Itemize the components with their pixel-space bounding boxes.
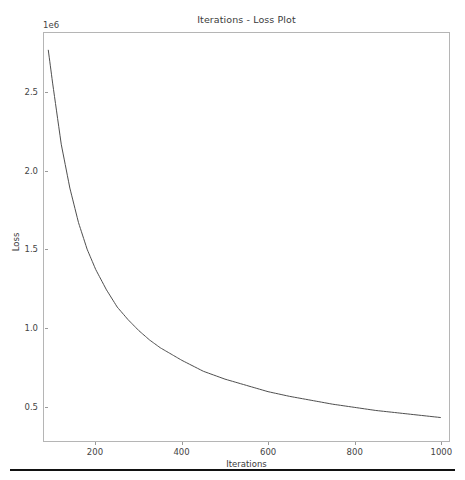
y-tick-mark bbox=[45, 249, 48, 250]
x-tick-mark bbox=[95, 442, 96, 445]
x-tick-label: 800 bbox=[347, 447, 363, 457]
bottom-divider bbox=[10, 469, 455, 471]
loss-line-series bbox=[48, 50, 440, 417]
x-tick-mark bbox=[441, 442, 442, 445]
y-tick-mark bbox=[45, 171, 48, 172]
x-tick-label: 200 bbox=[87, 447, 103, 457]
figure-canvas: Iterations - Loss Plot 1e6 0.51.01.52.02… bbox=[0, 0, 465, 480]
x-tick-mark bbox=[355, 442, 356, 445]
x-tick-label: 600 bbox=[260, 447, 276, 457]
y-tick-mark bbox=[45, 407, 48, 408]
y-tick-label: 0.5 bbox=[8, 402, 38, 412]
x-tick-label: 400 bbox=[173, 447, 189, 457]
y-axis-title: Loss bbox=[11, 212, 21, 272]
x-tick-mark bbox=[182, 442, 183, 445]
y-tick-label: 1.0 bbox=[8, 323, 38, 333]
y-tick-label: 2.5 bbox=[8, 87, 38, 97]
y-tick-mark bbox=[45, 328, 48, 329]
page-title: Iterations - Loss Plot bbox=[43, 14, 450, 25]
y-axis-tick-labels: 0.51.01.52.02.5 bbox=[5, 0, 38, 480]
plot-area bbox=[43, 32, 450, 442]
y-tick-label: 2.0 bbox=[8, 166, 38, 176]
y-axis-exponent-label: 1e6 bbox=[43, 20, 59, 30]
loss-curve-svg bbox=[44, 33, 449, 441]
x-tick-label: 1000 bbox=[431, 447, 453, 457]
x-axis-title: Iterations bbox=[43, 459, 450, 469]
x-tick-mark bbox=[268, 442, 269, 445]
y-tick-mark bbox=[45, 92, 48, 93]
